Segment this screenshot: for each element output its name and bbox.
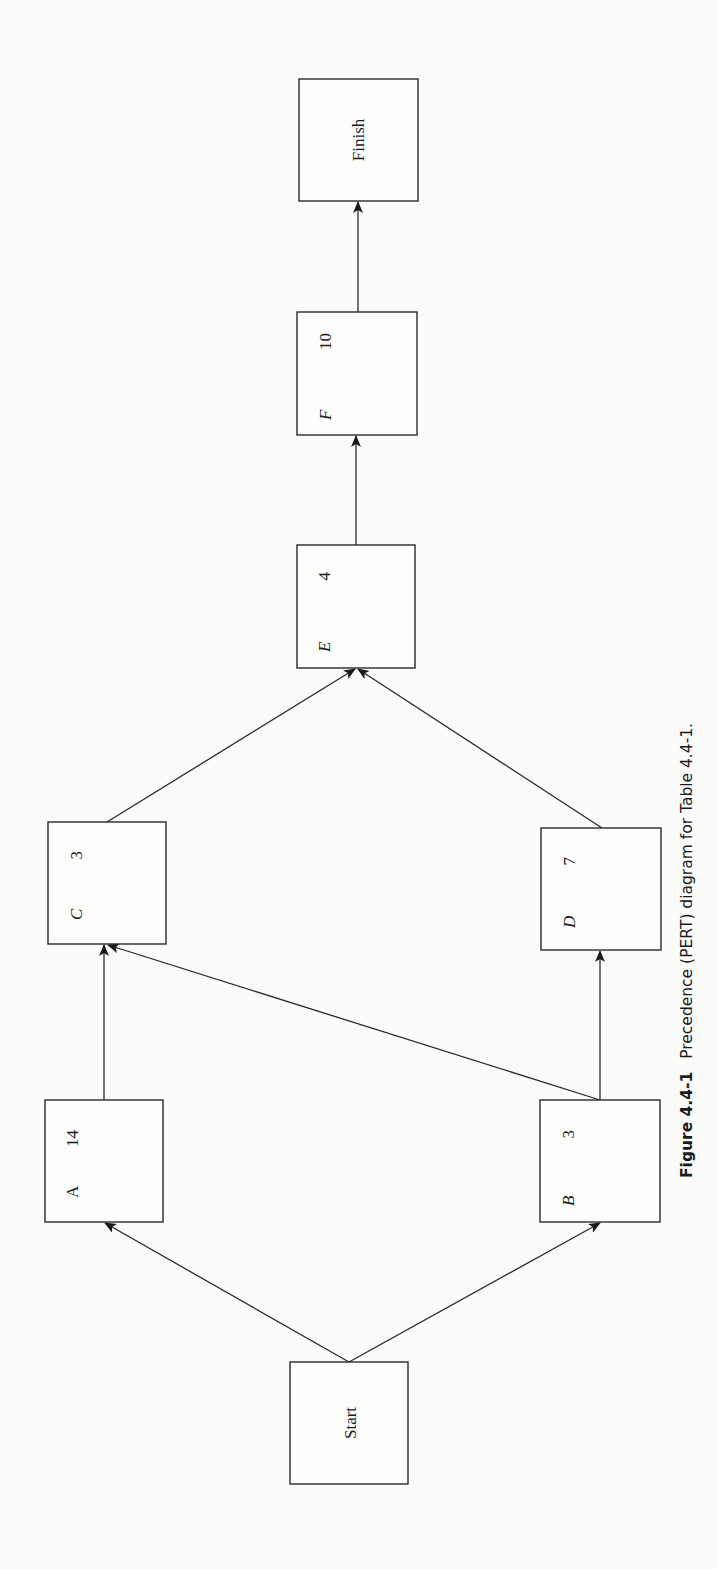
edge-start-to-b (349, 1223, 600, 1362)
node-c-label: C (67, 908, 86, 920)
node-c-duration: 3 (67, 851, 86, 860)
node-a-label: A (63, 1185, 82, 1198)
node-f-label: F (316, 409, 335, 421)
caption-label: Figure 4.4-1 (678, 1072, 696, 1178)
node-start-label: Start (341, 1407, 360, 1439)
figure-caption: Figure 4.4-1 Precedence (PERT) diagram f… (678, 723, 696, 1178)
node-d-duration: 7 (560, 857, 579, 866)
node-e: E 4 (297, 545, 415, 668)
node-d-label: D (560, 915, 579, 929)
svg-text:Figure 4.4-1 Precedence: Figure 4.4-1 Precedence (PERT) diagram f… (678, 723, 696, 1178)
node-c: C 3 (48, 822, 166, 944)
node-a-duration: 14 (63, 1130, 82, 1148)
edge-c-to-e (107, 669, 355, 822)
edge-b-to-c (108, 945, 600, 1100)
edge-start-to-a (105, 1223, 349, 1362)
caption-text: Precedence (PERT) diagram for Table 4.4-… (678, 723, 696, 1059)
edge-d-to-e (358, 669, 602, 828)
node-f: F 10 (297, 312, 417, 435)
node-start: Start (290, 1362, 408, 1484)
pert-diagram: Start A 14 B 3 C 3 D 7 E 4 F 10 Finish (0, 0, 717, 1569)
node-b-duration: 3 (559, 1130, 578, 1139)
node-b-label: B (559, 1195, 578, 1206)
node-e-duration: 4 (315, 572, 334, 581)
node-a: A 14 (45, 1100, 163, 1222)
node-f-duration: 10 (316, 333, 335, 350)
node-finish: Finish (299, 79, 418, 201)
node-b: B 3 (540, 1100, 660, 1222)
node-e-label: E (315, 641, 334, 653)
node-d: D 7 (541, 828, 661, 950)
node-finish-label: Finish (349, 118, 368, 161)
